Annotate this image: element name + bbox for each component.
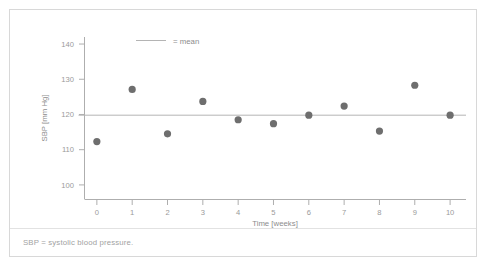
- x-axis-ticks: 012345678910: [95, 200, 455, 218]
- data-point: [235, 116, 242, 123]
- x-tick-label: 6: [307, 208, 311, 217]
- x-tick-label: 1: [130, 208, 134, 217]
- data-point: [341, 102, 348, 109]
- data-point: [199, 98, 206, 105]
- legend: = mean: [136, 37, 199, 46]
- x-axis-title: Time [weeks]: [252, 219, 298, 228]
- legend-label: = mean: [173, 37, 199, 46]
- y-tick-label: 100: [61, 181, 74, 190]
- y-tick-label: 120: [61, 110, 74, 119]
- data-point: [411, 82, 418, 89]
- y-axis-title: SBP [mm Hg]: [40, 94, 49, 141]
- x-tick-label: 3: [201, 208, 205, 217]
- x-tick-label: 7: [342, 208, 346, 217]
- y-tick-label: 140: [61, 40, 74, 49]
- y-tick-label: 130: [61, 75, 74, 84]
- x-tick-label: 5: [271, 208, 275, 217]
- figure-footnote: SBP = systolic blood pressure.: [23, 238, 133, 247]
- x-tick-label: 10: [446, 208, 454, 217]
- x-tick-label: 8: [377, 208, 381, 217]
- data-point: [129, 86, 136, 93]
- footnote-separator: [10, 228, 476, 229]
- data-point: [447, 112, 454, 119]
- scatter-plot-svg: 100110120130140 012345678910 SBP [mm Hg]…: [10, 10, 476, 228]
- x-tick-label: 4: [236, 208, 240, 217]
- data-point: [376, 127, 383, 134]
- data-point: [164, 130, 171, 137]
- x-tick-label: 9: [413, 208, 417, 217]
- y-tick-label: 110: [62, 145, 74, 154]
- data-point: [93, 138, 100, 145]
- x-tick-label: 2: [165, 208, 169, 217]
- data-point: [305, 112, 312, 119]
- data-point: [270, 120, 277, 127]
- data-point-group: [93, 82, 453, 146]
- figure-card: 100110120130140 012345678910 SBP [mm Hg]…: [9, 9, 477, 257]
- x-tick-label: 0: [95, 208, 99, 217]
- y-axis-ticks: 100110120130140: [61, 40, 84, 190]
- chart-plot-area: 100110120130140 012345678910 SBP [mm Hg]…: [10, 10, 476, 228]
